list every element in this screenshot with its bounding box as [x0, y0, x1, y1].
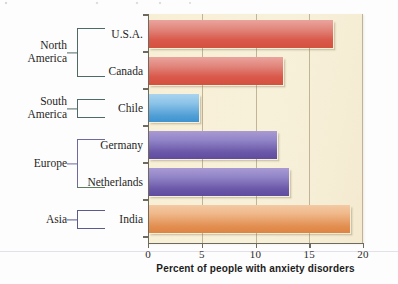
region-label-north-america-line1: North: [40, 39, 67, 51]
region-label-south-america: South America: [0, 95, 67, 121]
region-label-europe: Europe: [0, 157, 67, 170]
region-label-south-america-line1: South: [40, 95, 67, 107]
x-axis-title: Percent of people with anxiety disorders: [148, 263, 363, 274]
bracket-europe: [77, 139, 105, 188]
bracket-asia: [77, 210, 105, 229]
y-tick-3: [143, 125, 148, 127]
x-tick-label-0: 0: [145, 248, 151, 260]
bar-chile[interactable]: [148, 94, 199, 122]
bar-india[interactable]: [148, 205, 350, 233]
page-rule: [0, 251, 398, 252]
y-tick-0: [143, 14, 148, 16]
plot-area: [148, 14, 363, 243]
y-tick-6: [143, 236, 148, 238]
region-label-north-america-line2: America: [27, 52, 67, 64]
region-label-north-america: North America: [0, 39, 67, 65]
x-tick-label-5: 5: [199, 248, 205, 260]
region-label-asia: Asia: [0, 213, 67, 226]
bracket-north-america: [77, 28, 105, 77]
y-axis-line: [148, 14, 149, 243]
x-tick-label-10: 10: [250, 248, 261, 260]
gridline-20: [362, 14, 363, 243]
x-tick-label-20: 20: [357, 248, 368, 260]
y-tick-2: [143, 88, 148, 90]
y-tick-5: [143, 199, 148, 201]
anxiety-disorders-bar-chart: 0 5 10 15 20 Percent of people with anxi…: [0, 0, 398, 284]
bar-canada[interactable]: [148, 57, 283, 85]
bar-germany[interactable]: [148, 131, 277, 159]
y-tick-1: [143, 51, 148, 53]
plot-inner: [148, 14, 363, 243]
bar-usa[interactable]: [148, 20, 333, 48]
region-label-south-america-line2: America: [27, 108, 67, 120]
bracket-south-america: [77, 99, 105, 118]
x-tick-label-15: 15: [304, 248, 315, 260]
bar-netherlands[interactable]: [148, 168, 289, 196]
y-tick-4: [143, 162, 148, 164]
